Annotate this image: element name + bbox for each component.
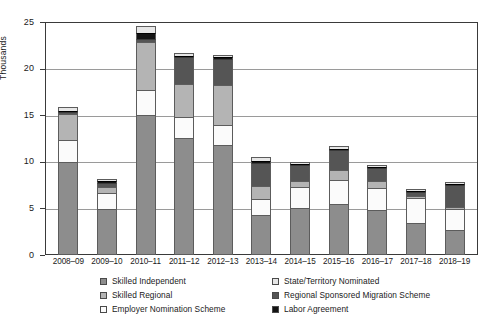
y-tick-label: 15 [8,111,34,120]
bar-column [168,22,201,255]
bar-segment [445,209,465,230]
bar-segment [136,42,156,90]
y-tick-label: 5 [8,204,34,213]
y-tick-mark [40,255,45,256]
bar-stack [406,189,426,255]
bar-stack [251,157,271,255]
bar-segment [97,193,117,210]
bar-segment [136,90,156,115]
bar-column [399,22,432,255]
bar-segment [136,26,156,33]
bar-segment [58,140,78,161]
y-axis-title: Thousands [0,0,8,118]
bar-column [438,22,471,255]
bar-segment [58,114,78,140]
bar-segment [251,186,271,199]
bar-segment [445,185,465,207]
legend-item-state-territory-nominated[interactable]: State/Territory Nominated [272,274,430,288]
legend-label: Employer Nomination Scheme [112,304,225,314]
bar-segment [213,59,233,85]
bar-segment [174,117,194,138]
legend-label: Regional Sponsored Migration Scheme [284,290,430,300]
x-tick-label: 2013–14 [245,257,278,266]
x-tick-label: 2018–19 [438,257,471,266]
legend-swatch-icon [100,278,107,285]
legend-item-regional-sponsored-migration-scheme[interactable]: Regional Sponsored Migration Scheme [272,288,430,302]
x-tick-label: 2015–16 [322,257,355,266]
x-axis: 2008–092009–102010–112011–122012–132013–… [45,257,478,266]
bar-column [284,22,317,255]
bar-column [52,22,85,255]
legend-item-skilled-independent[interactable]: Skilled Independent [100,274,272,288]
bar-column [361,22,394,255]
bar-segment [174,57,194,84]
bar-segment [367,168,387,181]
bar-segment [329,180,349,203]
bar-segment [251,199,271,215]
bar-segment [329,204,349,255]
x-tick-label: 2014–15 [284,257,317,266]
bar-segment [97,209,117,255]
y-tick-mark [40,69,45,70]
bar-segment [329,170,349,180]
bar-segment [136,115,156,255]
stacked-bar-chart: Thousands 2008–092009–102010–112011–1220… [0,0,488,333]
bar-segment [367,188,387,210]
legend-item-labor-agreement[interactable]: Labor Agreement [272,302,430,316]
legend-swatch-icon [272,306,279,313]
y-tick-mark [40,115,45,116]
bar-segment [174,84,194,117]
bar-segment [213,85,233,125]
legend-label: Skilled Independent [112,276,186,286]
x-tick-label: 2008–09 [52,257,85,266]
bar-segment [174,138,194,255]
legend-label: Skilled Regional [112,290,172,300]
bar-stack [329,146,349,255]
y-tick-mark [40,208,45,209]
bar-column [245,22,278,255]
bar-segment [445,230,465,255]
bars-container [45,22,478,255]
legend-item-skilled-regional[interactable]: Skilled Regional [100,288,272,302]
x-tick-label: 2009–10 [90,257,123,266]
legend-label: Labor Agreement [284,304,348,314]
bar-segment [329,150,349,171]
y-tick-label: 20 [8,64,34,73]
bar-segment [58,162,78,255]
y-tick-mark [40,162,45,163]
bar-segment [251,163,271,186]
bar-segment [213,145,233,255]
bar-segment [290,187,310,208]
bar-segment [290,208,310,255]
y-tick-label: 10 [8,157,34,166]
bar-segment [290,165,310,182]
legend-swatch-icon [272,278,279,285]
bar-stack [136,26,156,255]
bar-stack [213,55,233,255]
legend-swatch-icon [272,292,279,299]
bar-column [129,22,162,255]
bar-stack [174,53,194,255]
bar-stack [290,162,310,255]
bar-stack [367,165,387,255]
x-tick-label: 2016–17 [361,257,394,266]
bar-column [322,22,355,255]
bar-segment [251,215,271,255]
bar-stack [58,107,78,255]
legend-item-employer-nomination-scheme[interactable]: Employer Nomination Scheme [100,302,272,316]
legend-swatch-icon [100,292,107,299]
bar-column [90,22,123,255]
y-tick-mark [40,22,45,23]
bar-segment [406,198,426,223]
bar-segment [213,125,233,145]
y-tick-label: 25 [8,18,34,27]
legend-swatch-icon [100,306,107,313]
bar-segment [367,210,387,255]
x-tick-label: 2012–13 [206,257,239,266]
legend: Skilled IndependentState/Territory Nomin… [100,274,430,316]
legend-label: State/Territory Nominated [284,276,379,286]
x-tick-label: 2017–18 [399,257,432,266]
x-tick-label: 2011–12 [168,257,201,266]
y-tick-label: 0 [8,251,34,260]
bar-stack [445,182,465,255]
